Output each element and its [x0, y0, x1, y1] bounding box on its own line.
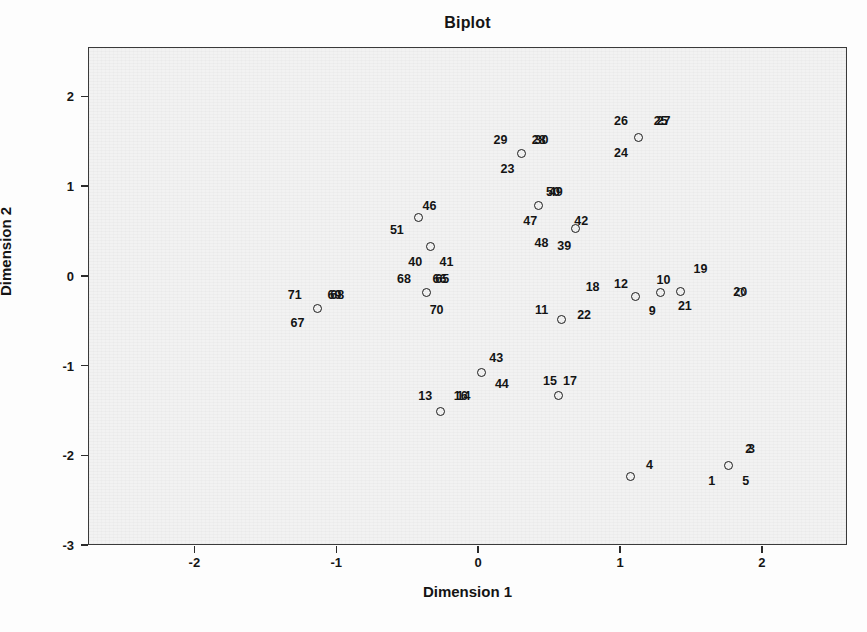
data-point-label: 47 — [523, 215, 537, 228]
data-point-label: 66 — [432, 272, 446, 285]
y-tick-mark — [81, 275, 88, 277]
x-tick-label: -2 — [189, 555, 201, 570]
data-point — [426, 242, 435, 251]
data-point-label: 71 — [288, 289, 302, 302]
data-point-label: 51 — [390, 224, 404, 237]
data-point-label: 29 — [493, 134, 507, 147]
data-point-label: 13 — [418, 390, 432, 403]
data-point-label: 68 — [330, 289, 344, 302]
data-point — [631, 292, 640, 301]
data-point-label: 26 — [614, 114, 628, 127]
page-title: Biplot — [88, 14, 847, 32]
data-point-label: 23 — [501, 163, 515, 176]
x-tick-mark — [477, 546, 479, 553]
x-tick-mark — [761, 546, 763, 553]
data-point-label: 46 — [423, 200, 437, 213]
data-point-label: 27 — [657, 114, 671, 127]
data-point-label: 67 — [291, 317, 305, 330]
x-tick-label: 1 — [616, 555, 623, 570]
data-point-label: 24 — [614, 147, 628, 160]
chart-page: Biplot 123549101921201118122213161415174… — [0, 0, 867, 632]
data-point-label: 15 — [543, 375, 557, 388]
data-point — [477, 368, 486, 377]
data-point — [554, 391, 563, 400]
data-point-label: 21 — [678, 299, 692, 312]
data-point-label: 41 — [440, 255, 454, 268]
y-tick-mark — [81, 96, 88, 98]
data-point — [634, 133, 643, 142]
data-point-label: 12 — [614, 278, 628, 291]
y-axis-title: Dimension 2 — [0, 207, 14, 296]
y-tick-label: 1 — [67, 179, 74, 194]
data-point-label: 4 — [646, 459, 653, 472]
y-tick-label: 0 — [67, 268, 74, 283]
data-point-label: 19 — [694, 262, 708, 275]
data-point-label: 18 — [586, 280, 600, 293]
data-point — [422, 288, 431, 297]
data-point — [517, 149, 526, 158]
y-tick-mark — [81, 185, 88, 187]
data-point — [534, 201, 543, 210]
data-point-label: 40 — [408, 255, 422, 268]
data-point-label: 11 — [535, 304, 548, 317]
x-tick-mark — [194, 546, 196, 553]
data-point — [656, 288, 665, 297]
data-point-label: 43 — [489, 352, 503, 365]
x-tick-label: 2 — [758, 555, 765, 570]
data-point-label: 49 — [549, 185, 563, 198]
data-point-label: 10 — [657, 273, 671, 286]
x-tick-label: 0 — [475, 555, 482, 570]
data-point — [626, 472, 635, 481]
data-point-label: 42 — [574, 215, 588, 228]
data-point-label: 1 — [708, 475, 715, 488]
x-tick-label: -1 — [330, 555, 342, 570]
data-point-label: 9 — [649, 305, 656, 318]
data-point-label: 3 — [748, 443, 755, 456]
data-point — [676, 287, 685, 296]
data-point-label: 70 — [430, 304, 444, 317]
data-point-label: 48 — [535, 236, 549, 249]
data-point-label: 68 — [397, 272, 411, 285]
data-point — [313, 304, 322, 313]
data-point-label: 14 — [457, 390, 471, 403]
data-point — [557, 315, 566, 324]
x-tick-mark — [619, 546, 621, 553]
data-point — [414, 213, 423, 222]
data-point-label: 44 — [495, 378, 509, 391]
x-tick-mark — [336, 546, 338, 553]
y-tick-label: -1 — [62, 358, 74, 373]
x-axis-title: Dimension 1 — [88, 583, 847, 600]
y-tick-label: 2 — [67, 89, 74, 104]
y-tick-label: -3 — [62, 538, 74, 553]
data-point-label: 20 — [733, 286, 747, 299]
y-tick-mark — [81, 365, 88, 367]
plot-area: 1235491019212011181222131614151743442329… — [88, 47, 847, 545]
y-tick-label: -2 — [62, 448, 74, 463]
data-point — [724, 461, 733, 470]
data-point-label: 30 — [535, 134, 549, 147]
data-point-label: 17 — [563, 375, 577, 388]
data-point — [436, 407, 445, 416]
data-point-label: 22 — [577, 309, 591, 322]
data-point-label: 5 — [742, 475, 749, 488]
y-tick-mark — [81, 544, 88, 546]
data-point-label: 39 — [557, 240, 571, 253]
y-tick-mark — [81, 455, 88, 457]
scatter-layer: 1235491019212011181222131614151743442329… — [89, 48, 846, 544]
